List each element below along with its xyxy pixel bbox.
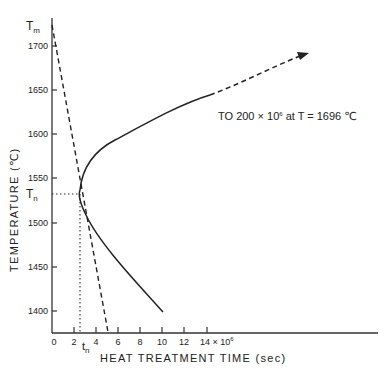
y-tick-1650: 1650 bbox=[28, 85, 48, 95]
y-tick-1450: 1450 bbox=[28, 262, 48, 272]
y-tick-1700: 1700 bbox=[28, 41, 48, 51]
ttt-curve-dashed-extension bbox=[210, 56, 300, 95]
x-tick-0: 0 bbox=[51, 337, 56, 347]
x-tick-8: 8 bbox=[137, 337, 142, 347]
y-tick-1600: 1600 bbox=[28, 129, 48, 139]
y-tick-labels: 1700 1650 1600 1550 1500 1450 1400 bbox=[28, 41, 48, 316]
tm-dashed-line bbox=[52, 25, 108, 332]
y-tick-1400: 1400 bbox=[28, 306, 48, 316]
y-tick-1500: 1500 bbox=[28, 218, 48, 228]
x-tick-2: 2 bbox=[71, 337, 76, 347]
arrowhead-icon bbox=[297, 52, 309, 60]
tn-x-label: tn bbox=[82, 340, 90, 355]
x-tick-12: 12 bbox=[179, 337, 189, 347]
y-tick-1550: 1550 bbox=[28, 173, 48, 183]
extension-annotation: TO 200 × 106 at T = 1696 ℃ bbox=[218, 110, 357, 122]
x-tick-6: 6 bbox=[115, 337, 120, 347]
tn-reference-dotted bbox=[52, 194, 80, 333]
x-tick-14: 14 × 106 bbox=[200, 336, 234, 347]
x-tick-4: 4 bbox=[93, 337, 98, 347]
chart: 1700 1650 1600 1550 1500 1450 1400 0 2 4… bbox=[0, 0, 386, 369]
tn-label: Tn bbox=[26, 187, 38, 203]
tm-label: Tm bbox=[26, 19, 40, 35]
x-ticks bbox=[74, 327, 207, 333]
x-tick-10: 10 bbox=[157, 337, 167, 347]
x-tick-labels: 0 2 4 6 8 10 12 14 × 106 bbox=[51, 336, 234, 347]
x-axis-title: HEAT TREATMENT TIME (sec) bbox=[100, 352, 287, 364]
y-axis-title: TEMPERATURE (℃) bbox=[8, 147, 20, 272]
y-ticks bbox=[52, 46, 57, 311]
